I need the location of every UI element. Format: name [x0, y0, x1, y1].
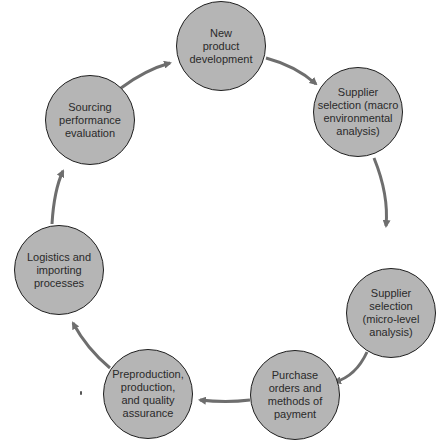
sourcing-cycle-diagram: New product development Supplier selecti…	[0, 0, 438, 448]
arrow-n7-to-n1	[121, 63, 170, 88]
node-label: New product development	[188, 27, 255, 66]
arrow-n4-to-n5	[200, 400, 250, 402]
node-purchase-orders-payment: Purchase orders and methods of payment	[250, 350, 340, 440]
node-label: Supplier selection (macro environmental …	[316, 86, 401, 138]
node-label: Sourcing performance evaluation	[57, 101, 123, 140]
arrow-n5-to-n6	[73, 323, 110, 368]
node-new-product-development: New product development	[176, 1, 266, 91]
node-supplier-selection-macro: Supplier selection (macro environmental …	[313, 67, 403, 157]
arrow-n1-to-n2	[266, 58, 316, 84]
node-preproduction-quality: Preproduction, production, and quality a…	[103, 349, 193, 439]
node-supplier-selection-micro: Supplier selection (micro-level analysis…	[346, 268, 436, 358]
node-sourcing-performance-evaluation: Sourcing performance evaluation	[45, 75, 135, 165]
arrow-n2-to-n3	[374, 158, 387, 226]
arrow-n3-to-n4	[335, 352, 367, 382]
node-label: Supplier selection (micro-level analysis…	[361, 287, 422, 339]
node-label: Logistics and importing processes	[25, 251, 93, 290]
node-label: Preproduction, production, and quality a…	[110, 368, 186, 420]
stray-mark	[80, 391, 82, 395]
arrow-n6-to-n7	[52, 171, 63, 224]
node-logistics-importing: Logistics and importing processes	[14, 225, 104, 315]
node-label: Purchase orders and methods of payment	[266, 369, 324, 421]
